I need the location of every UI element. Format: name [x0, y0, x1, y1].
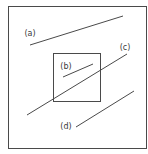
line-clipping-diagram: (a) (b) (c) (d) — [0, 0, 148, 154]
label-c: (c) — [120, 43, 131, 52]
label-d: (d) — [60, 122, 71, 131]
line-d — [76, 91, 134, 127]
line-a — [30, 16, 123, 45]
label-b: (b) — [60, 62, 71, 71]
label-a: (a) — [24, 29, 35, 38]
line-c — [27, 54, 127, 115]
outer-boundary — [9, 7, 147, 149]
